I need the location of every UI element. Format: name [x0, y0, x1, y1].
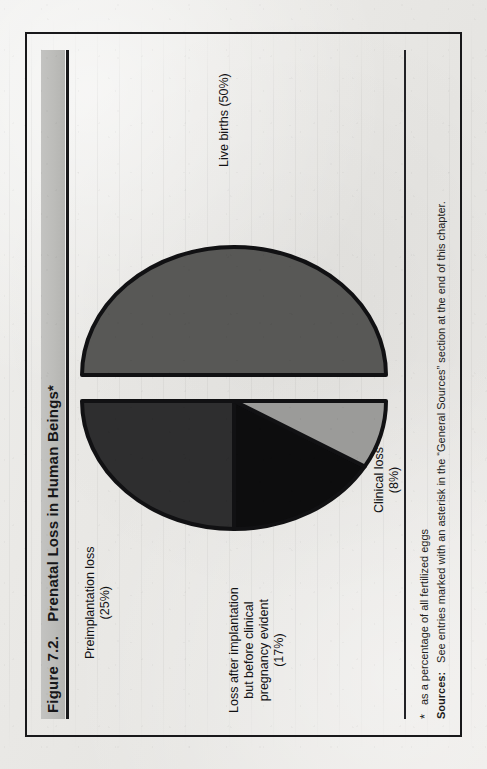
pie-slice-preimplantation — [82, 401, 234, 529]
label-clinical-loss: Clinical loss (8%) — [372, 447, 402, 513]
footer-divider — [404, 50, 406, 719]
figure-frame: Figure 7.2.Prenatal Loss in Human Beings… — [25, 32, 462, 737]
sources-note-text: See entries marked with an asterisk in t… — [435, 201, 447, 663]
asterisk-note: * as a percentage of all fertilized eggs — [417, 50, 431, 719]
label-loss-after-implantation: Loss after implantation but before clini… — [227, 587, 287, 713]
pie-chart-svg — [73, 179, 395, 551]
pie-slice-live-births — [82, 247, 386, 375]
sources-note: Sources:See entries marked with an aster… — [434, 50, 448, 719]
pie-slice-live-births-group — [82, 247, 386, 375]
label-preimplantation-loss: Preimplantation loss (25%) — [83, 546, 113, 659]
figure-number: Figure 7.2. — [44, 636, 61, 713]
pie-chart — [73, 179, 395, 551]
asterisk-symbol: * — [418, 714, 432, 719]
label-live-births: Live births (50%) — [217, 73, 232, 167]
figure-notes: * as a percentage of all fertilized eggs… — [417, 50, 448, 719]
page-title: Figure 7.2.Prenatal Loss in Human Beings… — [42, 385, 64, 713]
chart-area: Preimplantation loss (25%) Loss after im… — [77, 50, 400, 719]
scanned-page: Figure 7.2.Prenatal Loss in Human Beings… — [0, 0, 487, 769]
asterisk-note-text: as a percentage of all fertilized eggs — [418, 529, 430, 705]
figure-title-row: Figure 7.2.Prenatal Loss in Human Beings… — [41, 50, 71, 719]
sources-label: Sources: — [435, 672, 447, 719]
figure-title-text: Prenatal Loss in Human Beings* — [44, 385, 61, 622]
title-divider — [66, 50, 69, 719]
